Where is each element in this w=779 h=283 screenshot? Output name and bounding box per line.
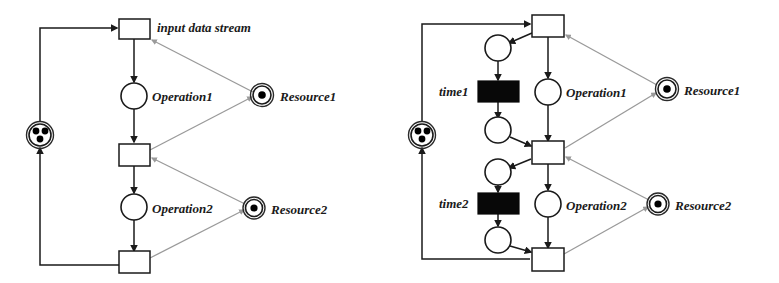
token	[654, 200, 661, 207]
token	[663, 85, 671, 93]
arc-buffer-to-t1	[422, 24, 530, 122]
label-resource2: Resource2	[270, 202, 328, 217]
place-post-time2[interactable]	[485, 227, 511, 253]
token	[42, 128, 49, 135]
label-operation1: Operation1	[152, 89, 213, 104]
arc-t2-to-pre-time2	[509, 159, 531, 168]
arc-t1-from-resource1	[152, 40, 253, 92]
place-operation2[interactable]	[535, 191, 561, 217]
label-input-data-stream: input data stream	[157, 20, 251, 35]
transition-time2[interactable]	[478, 193, 519, 214]
label-time1: time1	[439, 84, 469, 99]
transition-t3[interactable]	[119, 251, 150, 273]
transition-t3[interactable]	[532, 248, 564, 271]
label-time2: time2	[439, 196, 469, 211]
arc-t1-to-pre-time1	[509, 33, 532, 43]
right-petri-net: time1 time2 Operation1 Operation2 Resour…	[390, 0, 779, 283]
place-operation2[interactable]	[121, 194, 147, 220]
place-post-time1[interactable]	[485, 117, 511, 143]
arc-post-time2-to-t3	[510, 246, 531, 252]
arc-post-time1-to-t2	[510, 137, 531, 146]
token	[419, 136, 426, 143]
place-operation1[interactable]	[121, 83, 147, 109]
transition-time1[interactable]	[478, 81, 519, 102]
label-operation2: Operation2	[152, 201, 213, 216]
transition-t2[interactable]	[532, 141, 564, 164]
transition-t2[interactable]	[119, 144, 150, 166]
token	[424, 128, 431, 135]
label-resource2: Resource2	[674, 198, 732, 213]
arc-t1-from-resource1	[566, 35, 657, 85]
label-operation1: Operation1	[566, 85, 627, 100]
transition-t1[interactable]	[532, 15, 564, 37]
token	[258, 91, 266, 99]
place-operation1[interactable]	[535, 79, 561, 105]
arc-t3-to-buffer	[40, 148, 120, 265]
label-resource1: Resource1	[279, 89, 336, 104]
place-pre-time1[interactable]	[485, 35, 511, 61]
left-petri-net: input data stream Operation1 Operation2 …	[0, 0, 390, 283]
label-resource1: Resource1	[683, 83, 740, 98]
place-buffer[interactable]	[411, 124, 433, 146]
transition-t1-input-data-stream[interactable]	[119, 19, 150, 39]
arc-t2-to-resource1	[150, 97, 252, 150]
arc-t2-to-resource1	[565, 93, 656, 148]
arc-buffer-to-t1	[40, 28, 117, 122]
arc-t3-to-resource2	[564, 207, 648, 254]
place-buffer[interactable]	[29, 124, 51, 146]
token	[33, 128, 40, 135]
token	[37, 136, 44, 143]
token	[250, 204, 257, 211]
token	[415, 128, 422, 135]
arc-t2-from-resource2	[566, 157, 649, 200]
label-operation2: Operation2	[566, 198, 627, 213]
figure-canvas: input data stream Operation1 Operation2 …	[0, 0, 779, 283]
place-pre-time2[interactable]	[485, 159, 511, 185]
arc-t2-from-resource2	[152, 158, 245, 204]
arc-t3-to-resource2	[150, 210, 244, 258]
